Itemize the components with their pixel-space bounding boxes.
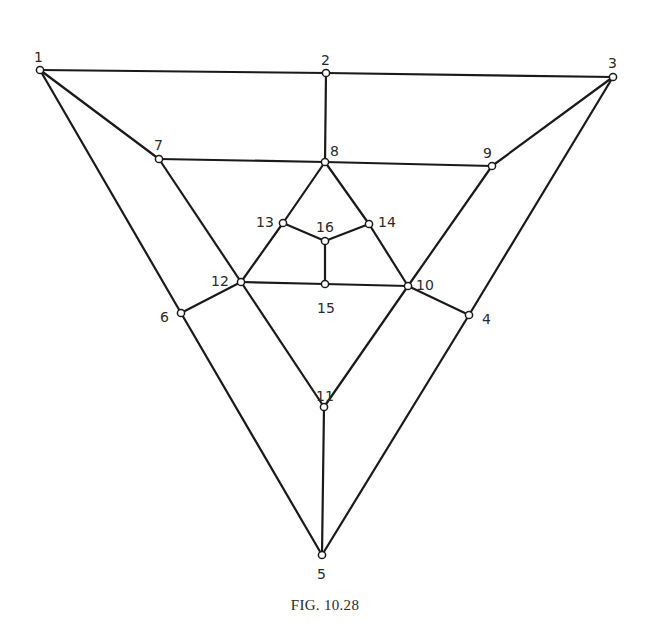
node-14 [365, 220, 372, 227]
edge-8-9 [325, 162, 492, 166]
node-9 [488, 162, 495, 169]
node-5 [318, 551, 325, 558]
node-13 [279, 219, 286, 226]
node-12 [237, 278, 244, 285]
node-11 [320, 403, 327, 410]
edge-7-8 [159, 159, 325, 162]
node-4 [465, 311, 472, 318]
node-label-14: 14 [378, 214, 396, 230]
node-label-5: 5 [317, 566, 326, 582]
edge-8-13 [283, 162, 325, 223]
node-label-1: 1 [34, 49, 43, 65]
node-label-11: 11 [316, 388, 334, 404]
node-2 [322, 69, 329, 76]
node-label-12: 12 [211, 273, 229, 289]
node-16 [321, 237, 328, 244]
node-6 [177, 309, 184, 316]
node-8 [321, 158, 328, 165]
node-7 [155, 155, 162, 162]
node-label-2: 2 [321, 52, 330, 68]
node-label-4: 4 [482, 311, 491, 327]
node-label-16: 16 [316, 219, 334, 235]
edge-9-10 [408, 166, 492, 286]
edge-6-5 [181, 313, 322, 555]
edge-3-9 [492, 77, 613, 166]
edge-14-10 [369, 224, 408, 286]
edge-4-5 [322, 315, 469, 555]
edge-7-12 [159, 159, 241, 282]
edge-1-2 [40, 70, 326, 73]
node-label-10: 10 [416, 277, 434, 293]
edge-12-15 [241, 282, 325, 284]
edge-13-12 [241, 223, 283, 282]
edge-1-7 [40, 70, 159, 159]
node-label-9: 9 [483, 145, 492, 161]
node-label-15: 15 [317, 300, 335, 316]
node-1 [36, 66, 43, 73]
node-3 [609, 73, 616, 80]
graph-figure: 12345678910111213141516 FIG. 10.28 [0, 0, 650, 625]
edge-10-11 [324, 286, 408, 407]
edge-12-11 [241, 282, 324, 407]
node-label-7: 7 [154, 137, 163, 153]
node-label-13: 13 [256, 214, 274, 230]
node-label-6: 6 [160, 309, 169, 325]
node-label-8: 8 [330, 143, 339, 159]
figure-caption: FIG. 10.28 [291, 597, 359, 613]
node-15 [321, 280, 328, 287]
node-label-3: 3 [608, 55, 617, 71]
edge-2-8 [325, 73, 326, 162]
edge-15-10 [325, 284, 408, 286]
edge-3-4 [469, 77, 613, 315]
edge-2-3 [326, 73, 613, 77]
edge-11-5 [322, 407, 324, 555]
node-10 [404, 282, 411, 289]
edge-8-14 [325, 162, 369, 224]
edge-1-6 [40, 70, 181, 313]
